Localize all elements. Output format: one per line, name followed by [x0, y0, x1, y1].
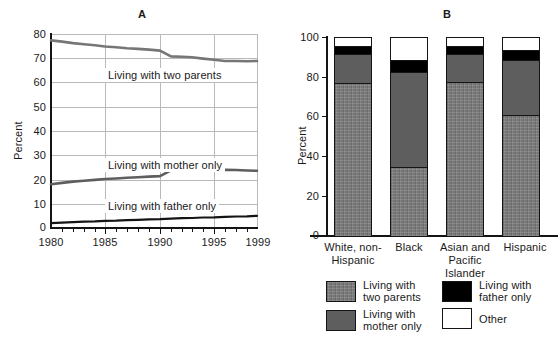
bar-white-non-hispanic[interactable]: [334, 37, 372, 235]
segment-father-only: [391, 60, 427, 72]
panel-a-annotation-mother-only: Living with mother only: [105, 158, 225, 172]
bar-asian-pacific-islander[interactable]: [446, 37, 484, 235]
panel-a-series-layer: [0, 0, 280, 260]
legend-swatch-father-only-icon: [442, 281, 472, 302]
figure-root: A Percent 80 70 60 50 40 30 20 10 0: [0, 0, 558, 341]
panel-a-annotation-two-parents: Living with two parents: [105, 68, 225, 82]
panel-b-tick-60: [322, 116, 326, 117]
legend-label-father-only: Living with father only: [479, 279, 531, 303]
legend-swatch-mother-only-icon: [326, 310, 356, 331]
segment-other: [335, 38, 371, 46]
panel-b-title: B: [443, 8, 451, 20]
panel-b-ytick-0: 0: [285, 229, 319, 241]
panel-b-tick-100: [322, 37, 326, 38]
segment-father-only: [335, 46, 371, 54]
segment-other: [447, 38, 483, 46]
category-label-hispanic: Hispanic: [495, 241, 555, 254]
segment-two-parents: [335, 83, 371, 236]
segment-other: [503, 38, 539, 50]
panel-b-ytick-80: 80: [285, 71, 319, 83]
segment-two-parents: [447, 82, 483, 236]
segment-mother-only: [503, 60, 539, 115]
segment-mother-only: [335, 54, 371, 83]
panel-b-tick-80: [322, 77, 326, 78]
panel-b-ytick-20: 20: [285, 190, 319, 202]
panel-a-annotation-father-only: Living with father only: [105, 199, 219, 213]
legend-label-two-parents: Living with two parents: [363, 279, 421, 303]
legend-item-father-only[interactable]: Living with father only: [442, 279, 531, 303]
legend-label-mother-only: Living with mother only: [363, 308, 422, 332]
panel-b-ytick-100: 100: [285, 31, 319, 43]
legend-swatch-two-parents-icon: [326, 281, 356, 302]
series-two-parents: [51, 40, 257, 61]
segment-father-only: [447, 46, 483, 54]
panel-a: A Percent 80 70 60 50 40 30 20 10 0: [0, 0, 280, 260]
panel-b-tick-20: [322, 196, 326, 197]
legend-label-other: Other: [479, 313, 507, 325]
bar-hispanic[interactable]: [502, 37, 540, 235]
segment-mother-only: [447, 54, 483, 82]
segment-two-parents: [391, 167, 427, 236]
legend: Living with two parents Living with moth…: [280, 275, 558, 341]
panel-b-ytick-60: 60: [285, 110, 319, 122]
segment-mother-only: [391, 72, 427, 167]
legend-item-other[interactable]: Other: [442, 308, 507, 329]
category-label-black: Black: [379, 241, 439, 254]
legend-swatch-other-icon: [442, 308, 472, 329]
panel-b-y-axis: [326, 36, 328, 237]
segment-other: [391, 38, 427, 60]
legend-item-mother-only[interactable]: Living with mother only: [326, 308, 422, 332]
series-father-only: [51, 216, 257, 223]
panel-b-tick-40: [322, 156, 326, 157]
panel-b-ytick-40: 40: [285, 150, 319, 162]
legend-item-two-parents[interactable]: Living with two parents: [326, 279, 421, 303]
bar-black[interactable]: [390, 37, 428, 235]
segment-two-parents: [503, 115, 539, 236]
segment-father-only: [503, 50, 539, 60]
panel-b-tick-0: [322, 235, 326, 236]
